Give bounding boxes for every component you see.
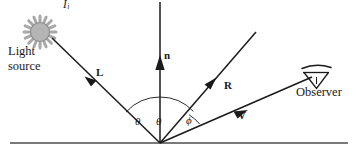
view-vector-V	[160, 77, 312, 143]
light-vector-L-label: L	[96, 67, 104, 79]
angle-theta-incident-label: θ	[135, 116, 140, 128]
observer-eyebrow-icon	[302, 65, 331, 68]
light-source-caption-line2: source	[8, 59, 41, 74]
light-source-caption-line1: Light	[8, 44, 41, 59]
reflection-vector-R	[160, 32, 256, 143]
reflection-vector-R-arrowhead	[205, 78, 217, 90]
light-source-caption: Light source	[8, 44, 41, 75]
angle-phi-label: ϕ	[186, 115, 192, 127]
view-vector-V-shaft	[160, 77, 312, 143]
light-vector-L-arrowhead	[85, 77, 97, 87]
reflection-vector-R-label: R	[224, 80, 232, 92]
normal-vector-n-label: n	[164, 50, 170, 62]
light-vector-L-shaft	[52, 38, 160, 143]
light-vector-L	[52, 38, 160, 143]
sun-disc-icon	[31, 23, 50, 42]
observer-caption: Observer	[296, 86, 342, 99]
angle-theta-reflected-label: θ	[156, 116, 161, 128]
reflection-vector-R-shaft	[160, 32, 256, 143]
diagram-canvas	[0, 0, 358, 157]
view-vector-V-label: V	[238, 110, 246, 122]
angle-arc-theta-incident	[126, 97, 160, 112]
phong-reflection-diagram: Ii Light source L n R V θ θ ϕ Observer	[0, 0, 358, 157]
incident-intensity-label: Ii	[63, 0, 69, 11]
incident-intensity-subscript: i	[67, 2, 69, 11]
